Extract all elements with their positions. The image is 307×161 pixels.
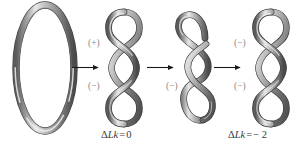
caption-right-operator: = <box>245 129 253 140</box>
structure-nicked-open-dna <box>179 15 213 121</box>
sign-label-struct4-bottom: (−) <box>234 82 246 92</box>
structure-relaxed-circular-dna <box>15 5 74 131</box>
diagram-stage: (+) (−) (−) (−) (−) ΔLk=0 ΔLk=− 2 <box>0 0 307 161</box>
sign-label-struct3-bottom: (−) <box>166 82 178 92</box>
caption-left-operator: = <box>118 129 126 140</box>
nicked-strand-body <box>179 15 209 121</box>
dna-supercoiling-figure: (+) (−) (−) (−) (−) ΔLk=0 ΔLk=− 2 <box>0 0 307 161</box>
sign-label-struct4-top: (−) <box>234 39 246 49</box>
caption-right-linking-number: ΔLk=− 2 <box>228 130 267 141</box>
dna-loop-tube-body <box>16 5 74 131</box>
dna-loop-inner-edge <box>19 8 72 128</box>
sign-label-struct2-top: (+) <box>88 39 100 49</box>
structure-supercoiled-minus-minus <box>256 12 287 124</box>
sign-label-struct2-bottom: (−) <box>88 82 100 92</box>
caption-left-variable: Lk <box>108 129 119 140</box>
caption-left-value: 0 <box>126 129 131 140</box>
delta-symbol: Δ <box>101 129 108 140</box>
delta-symbol: Δ <box>228 129 235 140</box>
caption-left-linking-number: ΔLk=0 <box>101 130 131 141</box>
structure-supercoiled-plus-minus <box>109 12 140 124</box>
caption-right-variable: Lk <box>235 129 246 140</box>
caption-right-value: − 2 <box>253 129 267 140</box>
